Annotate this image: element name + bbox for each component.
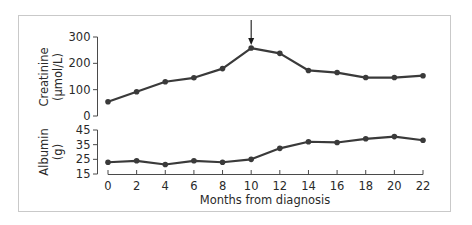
data-point (248, 45, 254, 51)
x-tick-label: 22 (416, 179, 431, 193)
data-point (191, 158, 197, 164)
x-tick-label: 6 (190, 179, 197, 193)
data-point (248, 157, 254, 163)
x-tick-label: 14 (301, 179, 316, 193)
y-tick-label: 0 (83, 109, 90, 123)
data-point (306, 68, 312, 74)
data-point (220, 159, 226, 165)
data-point (134, 89, 140, 95)
x-tick-label: 4 (162, 179, 169, 193)
data-point (306, 139, 312, 145)
x-axis-label: Months from diagnosis (200, 193, 330, 207)
albumin-ylabel-line2: (g) (51, 144, 65, 160)
y-tick-label: 15 (76, 167, 91, 181)
arrow-annotation (248, 20, 254, 45)
data-point (105, 99, 111, 105)
albumin-series (105, 134, 426, 167)
x-tick-label: 0 (104, 179, 111, 193)
data-point (191, 75, 197, 81)
albumin-ylabel-line1: Albumin (37, 128, 51, 175)
data-point (420, 73, 426, 79)
data-point (220, 66, 226, 72)
creatinine-y-axis: 0100200300 (69, 30, 98, 123)
y-tick-label: 45 (76, 123, 91, 137)
data-point (363, 136, 369, 142)
x-tick-label: 20 (387, 179, 402, 193)
data-point (277, 146, 283, 152)
data-point (392, 134, 398, 140)
data-point (392, 75, 398, 81)
y-tick-label: 100 (69, 83, 91, 97)
y-tick-label: 25 (76, 152, 91, 166)
data-point (334, 140, 340, 146)
x-tick-label: 18 (358, 179, 373, 193)
y-tick-label: 35 (76, 138, 91, 152)
creatinine-ylabel-line1: Creatinine (37, 47, 51, 106)
albumin-y-axis: 15253545 (76, 123, 98, 181)
x-tick-label: 10 (244, 179, 259, 193)
data-point (420, 137, 426, 143)
data-point (363, 75, 369, 81)
x-tick-label: 16 (330, 179, 345, 193)
x-tick-label: 2 (133, 179, 140, 193)
creatinine-albumin-chart: 0100200300 15253545 0246810121416182022 … (0, 0, 472, 225)
x-tick-label: 12 (272, 179, 287, 193)
data-point (105, 159, 111, 165)
data-point (134, 158, 140, 164)
creatinine-series (105, 45, 426, 104)
data-point (162, 162, 168, 168)
y-tick-label: 200 (69, 56, 91, 70)
x-tick-label: 8 (219, 179, 226, 193)
data-point (277, 51, 283, 57)
data-point (162, 79, 168, 85)
y-tick-label: 300 (69, 30, 91, 44)
creatinine-ylabel-line2: (µmol/L) (51, 53, 65, 101)
x-axis: 0246810121416182022 (104, 170, 430, 193)
data-point (334, 70, 340, 76)
